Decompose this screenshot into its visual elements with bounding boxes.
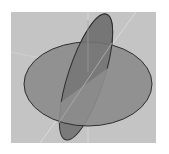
intersecting-planes-diagram [0, 0, 169, 154]
